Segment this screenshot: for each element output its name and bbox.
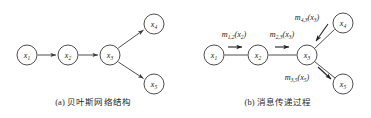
node-x4[interactable]: x4 <box>333 13 353 33</box>
node-x2[interactable]: x2 <box>248 45 268 65</box>
node-x3[interactable]: x3 <box>100 45 120 65</box>
panel-bayesian-network: x1 x2 x3 x4 x5 (a) <box>0 0 186 118</box>
panel-b-diagram: m1,2(x2) m2,3(x3) m4,3(x3) m3,5(x5) x1 x… <box>185 0 371 96</box>
edge-x3-x5 <box>118 62 143 79</box>
panel-a-nodes: x1 x2 x3 x4 x5 <box>17 14 164 94</box>
node-x1[interactable]: x1 <box>204 45 224 65</box>
node-x4[interactable]: x4 <box>144 14 164 34</box>
node-x5[interactable]: x5 <box>333 74 353 94</box>
edge-x3-x4 <box>118 30 143 48</box>
caption-panel-b: (b) 消息传递过程 <box>185 97 371 108</box>
node-x3[interactable]: x3 <box>297 45 317 65</box>
caption-panel-a: (a) 贝叶斯网络结构 <box>0 97 186 108</box>
message-label-m35: m3,5(x5) <box>285 73 310 83</box>
message-label-m12: m1,2(x2) <box>222 30 247 40</box>
figure-container: x1 x2 x3 x4 x5 (a) <box>0 0 371 118</box>
message-label-m23: m2,3(x3) <box>270 30 295 40</box>
node-x2[interactable]: x2 <box>58 45 78 65</box>
panel-a-edges <box>38 30 144 79</box>
panel-a-diagram: x1 x2 x3 x4 x5 <box>0 0 186 96</box>
message-arrow-m43 <box>316 24 328 41</box>
node-x1[interactable]: x1 <box>17 45 37 65</box>
node-x5[interactable]: x5 <box>144 74 164 94</box>
message-label-m43: m4,3(x3) <box>295 13 320 23</box>
edge-x3-x5 <box>315 62 336 79</box>
panel-message-passing: m1,2(x2) m2,3(x3) m4,3(x3) m3,5(x5) x1 x… <box>185 0 371 118</box>
panel-b-nodes: x1 x2 x3 x4 x5 <box>204 13 353 94</box>
